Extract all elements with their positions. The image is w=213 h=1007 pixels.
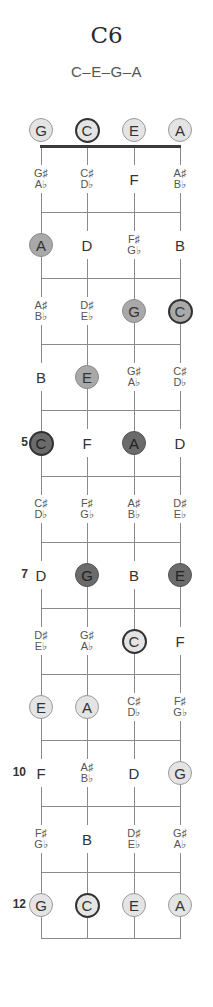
fret-note: C♯D♭ xyxy=(73,165,101,193)
fret-note: F♯G♭ xyxy=(120,231,148,259)
fret-note: F♯G♭ xyxy=(27,825,55,853)
note-label: G xyxy=(35,897,47,914)
root-note-marker: C xyxy=(168,299,193,324)
fret-note: B xyxy=(27,363,55,391)
flat-name: D♭ xyxy=(128,707,141,718)
fret-number: 7 xyxy=(16,567,28,581)
fret-line xyxy=(41,344,181,345)
note-label: C xyxy=(82,897,93,914)
note-name: D xyxy=(82,237,93,254)
fret-note: D xyxy=(120,759,148,787)
flat-name: G♭ xyxy=(80,509,94,520)
note-label: C xyxy=(36,435,47,452)
flat-name: G♭ xyxy=(34,839,48,850)
fret-note: C♯D♭ xyxy=(166,363,194,391)
fret-note: B xyxy=(166,231,194,259)
fret-note: F xyxy=(120,165,148,193)
chord-tone-marker: G xyxy=(75,563,99,587)
note-label: G xyxy=(128,303,140,320)
chord-tone-marker: G xyxy=(168,761,192,785)
fret-note: D xyxy=(27,561,55,589)
note-label: E xyxy=(129,122,139,139)
nut xyxy=(40,145,181,148)
fret-line xyxy=(41,410,181,411)
fret-note: B xyxy=(120,561,148,589)
fret-note: F xyxy=(166,627,194,655)
fret-line xyxy=(41,212,181,213)
flat-name: D♭ xyxy=(35,509,48,520)
fret-line xyxy=(41,476,181,477)
flat-name: E♭ xyxy=(174,509,186,520)
chord-tone-marker: A xyxy=(168,118,192,142)
fret-note: D♯E♭ xyxy=(27,627,55,655)
flat-name: B♭ xyxy=(35,311,47,322)
note-name: D xyxy=(129,765,140,782)
note-name: F xyxy=(175,633,184,650)
note-name: F xyxy=(82,435,91,452)
chord-tone-marker: A xyxy=(168,893,192,917)
note-name: F xyxy=(129,171,138,188)
flat-name: A♭ xyxy=(128,377,140,388)
chord-tone-marker: G xyxy=(29,893,53,917)
fret-note: A♯B♭ xyxy=(120,495,148,523)
flat-name: B♭ xyxy=(128,509,140,520)
fret-note: C♯D♭ xyxy=(120,693,148,721)
flat-name: D♭ xyxy=(174,377,187,388)
chord-tone-marker: G xyxy=(29,118,53,142)
fret-number: 12 xyxy=(8,897,26,911)
fret-number: 10 xyxy=(8,765,26,779)
note-label: A xyxy=(129,435,139,452)
fret-number: 5 xyxy=(16,435,28,449)
note-name: F xyxy=(36,765,45,782)
fret-line xyxy=(41,674,181,675)
flat-name: D♭ xyxy=(81,179,94,190)
fret-note: G♯A♭ xyxy=(73,627,101,655)
note-label: E xyxy=(36,699,46,716)
note-label: C xyxy=(82,122,93,139)
root-note-marker: C xyxy=(75,893,100,918)
note-name: B xyxy=(129,567,139,584)
flat-name: A♭ xyxy=(174,839,186,850)
note-label: E xyxy=(82,369,92,386)
fret-note: G♯A♭ xyxy=(166,825,194,853)
chord-tone-marker: E xyxy=(75,365,99,389)
note-label: G xyxy=(81,567,93,584)
fret-note: D xyxy=(73,231,101,259)
fret-note: F xyxy=(73,429,101,457)
flat-name: B♭ xyxy=(81,773,93,784)
fret-line xyxy=(41,278,181,279)
fret-note: A♯B♭ xyxy=(73,759,101,787)
note-label: A xyxy=(175,122,185,139)
fret-line xyxy=(41,806,181,807)
note-name: D xyxy=(36,567,47,584)
fret-line xyxy=(41,872,181,873)
fretboard: GCEAG♯A♭C♯D♭FA♯B♭ADF♯G♭BA♯B♭D♯E♭GCBEG♯A♭… xyxy=(0,0,213,1007)
fret-note: D♯E♭ xyxy=(73,297,101,325)
note-name: D xyxy=(175,435,186,452)
chord-tone-marker: E xyxy=(168,563,192,587)
root-note-marker: C xyxy=(122,629,147,654)
fret-note: G♯A♭ xyxy=(27,165,55,193)
chord-tone-marker: E xyxy=(29,695,53,719)
fret-note: C♯D♭ xyxy=(27,495,55,523)
note-label: A xyxy=(175,897,185,914)
fret-note: B xyxy=(73,825,101,853)
fret-note: F♯G♭ xyxy=(166,693,194,721)
note-label: E xyxy=(129,897,139,914)
note-name: B xyxy=(175,237,185,254)
root-note-marker: C xyxy=(75,118,100,143)
chord-tone-marker: E xyxy=(122,893,146,917)
note-label: C xyxy=(175,303,186,320)
chord-tone-marker: E xyxy=(122,118,146,142)
fret-note: A♯B♭ xyxy=(166,165,194,193)
root-note-marker: C xyxy=(29,431,54,456)
note-label: C xyxy=(129,633,140,650)
flat-name: G♭ xyxy=(173,707,187,718)
chord-tone-marker: A xyxy=(122,431,146,455)
fret-note: F♯G♭ xyxy=(73,495,101,523)
fret-note: D♯E♭ xyxy=(120,825,148,853)
note-label: A xyxy=(36,237,46,254)
fret-note: A♯B♭ xyxy=(27,297,55,325)
flat-name: E♭ xyxy=(81,311,93,322)
fret-line xyxy=(41,740,181,741)
